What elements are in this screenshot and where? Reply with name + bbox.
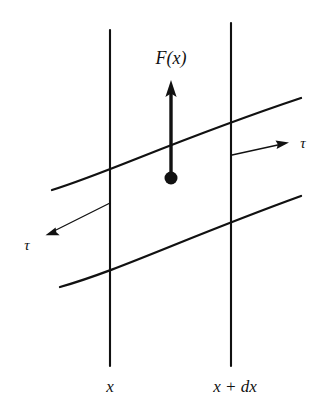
x-position-label: x (105, 377, 114, 396)
tau-right-arrow-shaft (232, 145, 280, 156)
string-element-diagram: F(x) τ τ x x + dx (0, 0, 329, 420)
tau-left-label: τ (24, 237, 30, 253)
force-origin-dot (165, 172, 178, 185)
figure-canvas: F(x) τ τ x x + dx (0, 0, 329, 420)
force-label: F(x) (155, 48, 187, 69)
tau-right-label: τ (300, 135, 306, 151)
x-plus-dx-position-label: x + dx (212, 377, 257, 396)
tau-left-arrow-shaft (55, 203, 110, 231)
